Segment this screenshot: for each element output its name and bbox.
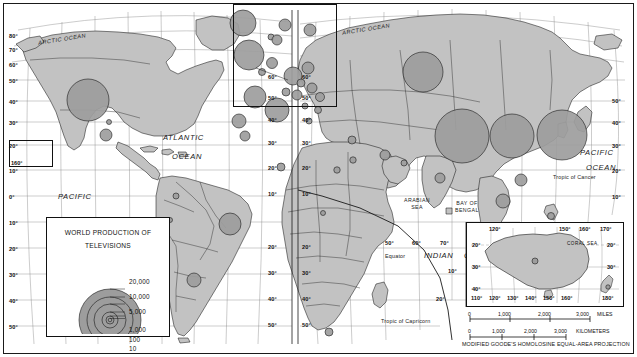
legend-box: WORLD PRODUCTION OF TELEVISIONS 20,0001: [46, 217, 170, 337]
legend-value-2: 5,000: [129, 308, 146, 315]
lat-label-center-7: 30°: [268, 270, 277, 276]
lat-label-west-0: 80°: [9, 33, 18, 39]
lon-label-0: 50°: [385, 240, 394, 246]
aus-right-label-0: 20°: [607, 242, 615, 248]
scale-km-tick-2: 2,000: [524, 328, 537, 334]
circle-philippines: [548, 213, 555, 220]
lat-label-west-4: 40°: [9, 99, 18, 105]
lat-label-east-0: 50°: [612, 98, 621, 104]
aus-top-label-1: 150°: [559, 226, 571, 232]
scale-miles-unit: MILES: [597, 311, 613, 317]
legend-title-line1: WORLD PRODUCTION OF: [47, 227, 169, 240]
legend-value-1: 10,000: [129, 293, 150, 300]
lat-label-west-9: 10°: [9, 220, 18, 226]
circle-korea: [490, 114, 534, 158]
atlantic-ocean: ATLANTIC: [163, 133, 204, 142]
lat-label-center2-1: 50°: [302, 95, 311, 101]
circle-portugal: [240, 131, 250, 141]
circle-hong-kong: [496, 194, 510, 208]
circle-australia: [532, 258, 538, 264]
legend-title-line2: TELEVISIONS: [47, 240, 169, 253]
tropic-of-cancer: Tropic of Cancer: [553, 174, 596, 180]
circle-bulgaria: [315, 107, 322, 114]
aus-top-label-3: 170°: [600, 226, 612, 232]
lat-label-center2-3: 30°: [302, 140, 311, 146]
lat-label-west-12: 40°: [9, 298, 18, 304]
aus-bottom-label-2: 130°: [507, 295, 519, 301]
lat-label-indian-10: 10°: [448, 268, 457, 274]
pacific-ocean-east: PACIFIC: [580, 148, 614, 157]
aus-bottom-label-1: 120°: [489, 295, 501, 301]
atlantic-ocean-2: OCEAN: [172, 152, 202, 161]
aus-bottom-label-3: 140°: [525, 295, 537, 301]
lat-label-east-1: 40°: [612, 120, 621, 126]
projection-note: MODIFIED GOODE'S HOMOLOSINE EQUAL-AREA P…: [462, 341, 630, 347]
scale-km-unit: KILOMETERS: [576, 328, 609, 334]
aus-bottom-label-4: 150°: [543, 295, 555, 301]
lat-label-center-8: 40°: [268, 296, 277, 302]
coral-sea-label: CORAL SEA: [567, 241, 598, 246]
circle-turkey: [348, 136, 356, 144]
legend-value-3: 1,000: [129, 326, 146, 333]
lat-label-west-13: 50°: [9, 324, 18, 330]
scale-km-tick-0: 0: [468, 328, 471, 334]
scale-miles-tick-2: 2,000: [538, 311, 551, 317]
circle-south-africa: [325, 328, 333, 336]
lat-label-center2-0: 60°: [302, 74, 311, 80]
bay-of-bengal: BAY OF BENGAL: [455, 200, 479, 213]
aus-bottom-label-5: 160°: [561, 295, 573, 301]
legend-value-4: 100: [129, 336, 140, 343]
lat-label-center-6: 20°: [268, 244, 277, 250]
circle-brazil: [219, 213, 241, 235]
aus-bottom-label-0: 110°: [471, 295, 482, 301]
lat-label-west-1: 70°: [9, 47, 18, 53]
lat-label-east-3: 20°: [612, 168, 621, 174]
lat-label-center2-5: 10°: [302, 191, 311, 197]
scale-miles-tick-0: 0: [468, 311, 471, 317]
lat-label-center2-2: 40°: [302, 117, 311, 123]
scale-km-tick-1: 1,000: [492, 328, 505, 334]
lat-label-west-10: 20°: [9, 246, 18, 252]
legend-value-5: 10: [129, 345, 137, 352]
circle-russia: [403, 52, 443, 92]
lat-label-east-4: 10°: [612, 194, 621, 200]
aus-left-label-1: 30°: [472, 264, 480, 270]
circle-nigeria: [321, 211, 326, 216]
europe-inset-frame: [233, 4, 337, 107]
aus-bottom-label-6: 180°: [602, 295, 614, 301]
pacific-ocean-west: PACIFIC: [58, 192, 92, 201]
scale-km-tick-3: 3,000: [554, 328, 567, 334]
circle-china: [435, 109, 489, 163]
lat-label-center-5: 10°: [268, 191, 277, 197]
aus-top-label-0: 120°: [489, 226, 501, 232]
lat-label-center-2: 40°: [268, 117, 277, 123]
circle-argentina: [187, 273, 201, 287]
lat-label-center-1: 50°: [268, 95, 277, 101]
circle-morocco: [277, 163, 285, 171]
australia-inset: 120°150°160°170°20°30°40°20°30°110°120°1…: [466, 222, 624, 307]
circle-mexico: [100, 129, 112, 141]
lat-label-center2-9: 50°: [302, 322, 311, 328]
lat-label-center2-8: 40°: [302, 296, 311, 302]
circle-canada-small: [107, 120, 112, 125]
lat-label-west-3: 50°: [9, 78, 18, 84]
circle-pakistan: [401, 160, 407, 166]
circle-india: [435, 173, 445, 183]
lon-label-2: 70°: [440, 240, 449, 246]
lat-label-center2-6: 20°: [302, 244, 311, 250]
circle-taiwan: [515, 174, 527, 186]
lon-label-1: 60°: [412, 240, 421, 246]
circle-iran: [380, 150, 390, 160]
circle-united-states: [67, 79, 109, 121]
aus-top-label-2: 160°: [579, 226, 591, 232]
tropic-of-capricorn: Tropic of Capricorn: [381, 318, 430, 324]
aus-left-label-0: 20°: [472, 242, 480, 248]
lat-label-center2-7: 30°: [302, 270, 311, 276]
lat-label-west-11: 30°: [9, 272, 18, 278]
hawaii-inset-label: 160°: [11, 160, 23, 166]
arabian-sea: ARABIAN SEA: [404, 197, 430, 210]
lat-label-indian-20: 20°: [436, 296, 445, 302]
australia-inset-map: [467, 223, 623, 306]
circle-colombia: [173, 193, 179, 199]
circle-new-zealand: [606, 285, 610, 289]
